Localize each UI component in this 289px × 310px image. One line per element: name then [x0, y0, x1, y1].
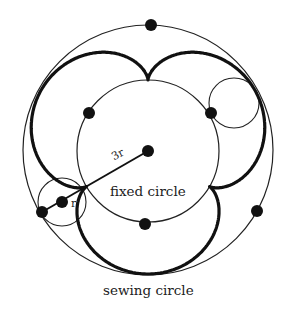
point-top: [145, 19, 157, 31]
point-right: [251, 205, 263, 217]
point-bottom: [139, 218, 151, 230]
epicycloid-diagram: 3r r fixed circle sewing circle: [0, 0, 289, 310]
point-rolling-center: [56, 196, 68, 208]
fixed-circle-label: fixed circle: [110, 183, 186, 199]
point-upper-right: [205, 107, 217, 119]
big-radius-label: 3r: [109, 146, 127, 164]
point-center: [142, 145, 154, 157]
small-radius-label: r: [71, 197, 77, 210]
point-upper-left: [83, 107, 95, 119]
epicycloid-curve: [31, 52, 265, 274]
sewing-circle-label: sewing circle: [103, 282, 194, 298]
point-bottom-left: [36, 206, 48, 218]
